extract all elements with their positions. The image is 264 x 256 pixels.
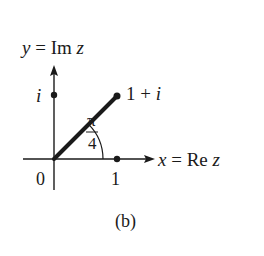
angle-denominator: 4 [88,135,97,152]
point-i [51,92,57,98]
y-axis-label: y = Im z [22,38,84,57]
figure-caption: (b) [115,212,136,230]
vector-1-plus-i [54,96,117,159]
complex-plane-diagram: y = Im z x = Re z i 1 + i 0 1 π 4 (b) [0,0,264,256]
complex-point-label: 1 + i [126,84,161,103]
x-axis-label: x = Re z [158,150,220,169]
point-1 [114,156,120,162]
real-unit-label: 1 [111,170,120,188]
imag-unit-label: i [36,86,41,105]
origin-label: 0 [36,170,45,188]
point-1-plus-i [114,93,121,100]
angle-numerator: π [87,112,96,129]
